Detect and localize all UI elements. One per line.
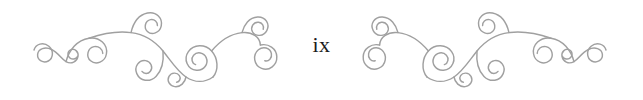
- flourish-ornament-right: [360, 8, 605, 92]
- page-ornament-header: ix: [0, 0, 643, 100]
- flourish-right-svg: [360, 8, 605, 92]
